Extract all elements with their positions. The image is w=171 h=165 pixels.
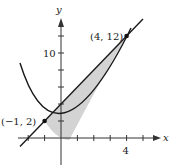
- point-label-right: (4, 12): [90, 31, 123, 42]
- x-tick-label-4: 4: [123, 145, 129, 156]
- y-axis-arrow-icon: [58, 18, 64, 27]
- y-axis-label: y: [55, 4, 62, 15]
- graph: y x 10 4 (−1, 2) (4, 12): [0, 0, 171, 165]
- y-axis: [58, 24, 64, 165]
- shaded-region: [45, 36, 127, 140]
- x-axis-arrow-icon: [153, 135, 161, 141]
- x-axis-label: x: [163, 132, 169, 143]
- x-axis: [18, 135, 157, 141]
- y-tick-label-10: 10: [43, 48, 56, 59]
- diagram: y x 10 4 (−1, 2) (4, 12): [0, 0, 171, 165]
- intersection-point-right: [124, 34, 129, 39]
- point-label-left: (−1, 2): [1, 116, 36, 127]
- line-curve: [20, 19, 143, 147]
- intersection-point-left: [42, 119, 47, 124]
